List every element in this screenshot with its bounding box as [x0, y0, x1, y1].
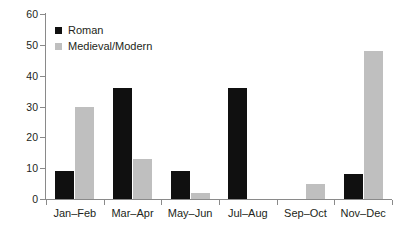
bar-roman [228, 88, 247, 199]
bar-roman [171, 171, 190, 199]
legend-swatch-icon-medieval-modern [55, 43, 62, 50]
legend-item-medieval-modern: Medieval/Modern [55, 41, 152, 52]
x-tick-mark [161, 200, 162, 205]
x-tick-label: May–Jun [161, 208, 219, 219]
x-tick-mark [46, 200, 47, 205]
chart-legend: Roman Medieval/Modern [55, 25, 152, 57]
y-tick-mark [40, 76, 45, 77]
y-tick-label: 50 [4, 40, 38, 51]
bar-roman [55, 171, 74, 199]
y-tick-mark [40, 107, 45, 108]
y-tick-label: 20 [4, 132, 38, 143]
x-tick-label: Mar–Apr [104, 208, 162, 219]
y-tick-label: 10 [4, 163, 38, 174]
legend-label-medieval-modern: Medieval/Modern [68, 41, 152, 52]
y-tick-mark [40, 137, 45, 138]
bar-medieval-modern [191, 193, 210, 199]
x-tick-mark [277, 200, 278, 205]
bar-medieval-modern [306, 184, 325, 199]
bar-roman [344, 174, 363, 199]
y-tick-label: 60 [4, 9, 38, 20]
y-tick-label: 40 [4, 71, 38, 82]
x-tick-label: Sep–Oct [277, 208, 335, 219]
bar-medieval-modern [133, 159, 152, 199]
x-tick-label: Jan–Feb [46, 208, 104, 219]
bar-medieval-modern [75, 107, 94, 200]
y-tick-label: 0 [4, 194, 38, 205]
y-tick-mark [40, 168, 45, 169]
y-tick-label: 30 [4, 102, 38, 113]
bar-chart: 0102030405060 Jan–FebMar–AprMay–JunJul–A… [0, 0, 401, 231]
x-tick-label: Nov–Dec [334, 208, 392, 219]
legend-item-roman: Roman [55, 25, 152, 36]
y-tick-mark [40, 45, 45, 46]
bar-medieval-modern [364, 51, 383, 199]
x-tick-mark [334, 200, 335, 205]
y-tick-mark [40, 199, 45, 200]
x-tick-mark [392, 200, 393, 205]
legend-swatch-icon-roman [55, 27, 62, 34]
bar-roman [113, 88, 132, 199]
x-tick-mark [104, 200, 105, 205]
x-tick-mark [219, 200, 220, 205]
y-tick-mark [40, 14, 45, 15]
y-axis-line [45, 13, 46, 200]
x-tick-label: Jul–Aug [219, 208, 277, 219]
legend-label-roman: Roman [68, 25, 103, 36]
